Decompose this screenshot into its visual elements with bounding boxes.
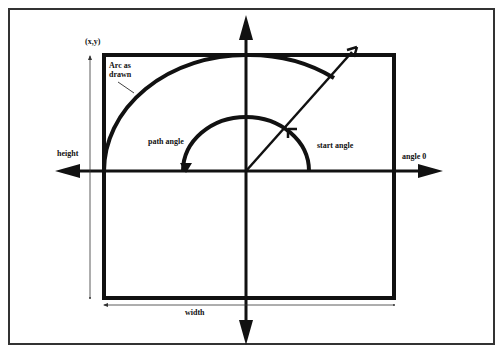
- angle-zero-label: angle 0: [402, 152, 426, 161]
- right-arrowhead-icon: [418, 164, 443, 178]
- arc-as-drawn-label-line2: drawn: [109, 70, 131, 79]
- arc-as-drawn-label-line1: Arc as: [109, 61, 131, 70]
- height-dimension: [88, 55, 92, 299]
- origin-label: (x,y): [85, 37, 100, 46]
- vertical-axis: [239, 15, 253, 345]
- width-label: width: [185, 308, 205, 317]
- height-label: height: [57, 149, 78, 158]
- arc-diagram: [0, 0, 501, 355]
- arc-as-drawn: [104, 55, 334, 171]
- start-angle-ray: [246, 52, 352, 171]
- up-arrowhead-icon: [239, 15, 253, 40]
- left-arrowhead-icon: [55, 164, 80, 178]
- arc-pointer-line: [118, 82, 134, 93]
- bounding-rectangle: [104, 55, 394, 298]
- start-angle-label: start angle: [317, 141, 353, 150]
- path-angle-label: path angle: [148, 137, 184, 146]
- width-dimension: [103, 303, 395, 307]
- down-arrowhead-icon: [239, 320, 253, 345]
